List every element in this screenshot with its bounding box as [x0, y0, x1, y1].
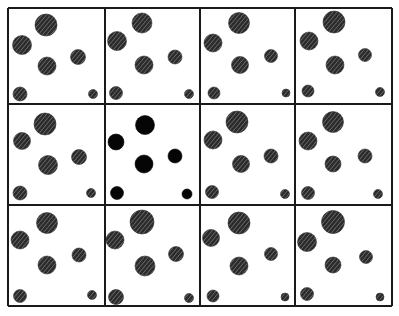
hatched-dot-2 — [300, 32, 318, 50]
hatched-dot-3 — [325, 156, 341, 172]
dot-grid-figure — [0, 0, 399, 316]
hatched-dot-5 — [109, 290, 124, 305]
solid-dot-4 — [168, 149, 182, 163]
panel-9 — [11, 213, 97, 303]
panel-4 — [300, 11, 385, 97]
dots-layer — [11, 11, 385, 305]
solid-dot-1 — [136, 116, 155, 135]
panel-8 — [299, 112, 383, 200]
hatched-dot-6 — [282, 89, 290, 97]
figure-canvas — [0, 0, 399, 316]
hatched-dot-6 — [281, 293, 289, 301]
hatched-dot-5 — [206, 186, 219, 199]
hatched-dot-5 — [207, 290, 219, 302]
hatched-dot-4 — [358, 149, 372, 163]
hatched-dot-2 — [13, 36, 32, 55]
hatched-dot-3 — [135, 256, 155, 276]
hatched-dot-5 — [13, 186, 27, 200]
hatched-dot-1 — [35, 14, 57, 36]
hatched-dot-6 — [89, 90, 98, 99]
solid-dot-2 — [108, 134, 124, 150]
panel-12 — [298, 211, 385, 302]
hatched-dot-5 — [13, 87, 27, 101]
hatched-dot-5 — [302, 85, 314, 97]
hatched-dot-3 — [230, 257, 248, 275]
hatched-dot-1 — [228, 212, 250, 234]
hatched-dot-2 — [204, 131, 222, 149]
hatched-dot-5 — [301, 288, 314, 301]
hatched-dot-2 — [14, 133, 31, 150]
hatched-dot-1 — [132, 13, 152, 33]
hatched-dot-3 — [38, 57, 56, 75]
hatched-dot-3 — [135, 56, 153, 74]
hatched-dot-1 — [323, 11, 345, 33]
hatched-dot-2 — [298, 233, 317, 252]
hatched-dot-4 — [359, 49, 372, 62]
hatched-dot-6 — [88, 291, 97, 300]
hatched-dot-5 — [302, 187, 315, 200]
solid-dot-5 — [111, 187, 124, 200]
hatched-dot-4 — [71, 50, 86, 65]
hatched-dot-2 — [11, 231, 29, 249]
hatched-dot-2 — [299, 132, 317, 150]
hatched-dot-2 — [204, 34, 222, 52]
hatched-dot-1 — [323, 112, 344, 133]
hatched-dot-3 — [38, 256, 56, 274]
hatched-dot-4 — [360, 251, 373, 264]
hatched-dot-2 — [203, 230, 220, 247]
hatched-dot-6 — [185, 90, 194, 99]
panel-1 — [13, 14, 98, 101]
hatched-dot-4 — [168, 50, 182, 64]
panel-3 — [204, 13, 290, 100]
hatched-dot-4 — [264, 149, 278, 163]
panel-5 — [13, 113, 96, 200]
hatched-dot-3 — [233, 156, 250, 173]
panel-11 — [203, 212, 290, 302]
hatched-dot-5 — [14, 290, 27, 303]
hatched-dot-6 — [87, 189, 96, 198]
hatched-dot-6 — [376, 88, 385, 97]
hatched-dot-1 — [322, 211, 345, 234]
solid-dot-6 — [182, 189, 192, 199]
panel-10 — [106, 210, 194, 305]
hatched-dot-5 — [110, 87, 123, 100]
hatched-dot-4 — [265, 50, 278, 63]
hatched-dot-1 — [37, 213, 58, 234]
hatched-dot-3 — [232, 57, 249, 74]
hatched-dot-3 — [325, 257, 341, 273]
panel-2 — [108, 13, 194, 100]
hatched-dot-6 — [374, 190, 383, 199]
hatched-dot-4 — [169, 247, 184, 262]
panel-6 — [108, 116, 192, 200]
hatched-dot-4 — [72, 248, 86, 262]
hatched-dot-4 — [265, 248, 278, 261]
hatched-dot-1 — [229, 13, 250, 34]
hatched-dot-1 — [226, 111, 248, 133]
hatched-dot-5 — [208, 87, 220, 99]
hatched-dot-6 — [376, 293, 384, 301]
panel-7 — [204, 111, 290, 199]
hatched-dot-6 — [281, 190, 290, 199]
hatched-dot-3 — [39, 156, 58, 175]
hatched-dot-4 — [72, 150, 87, 165]
hatched-dot-1 — [34, 113, 56, 135]
hatched-dot-2 — [108, 32, 127, 51]
hatched-dot-6 — [185, 294, 194, 303]
solid-dot-3 — [135, 155, 153, 173]
hatched-dot-3 — [326, 56, 344, 74]
hatched-dot-1 — [130, 210, 154, 234]
hatched-dot-2 — [106, 231, 124, 249]
